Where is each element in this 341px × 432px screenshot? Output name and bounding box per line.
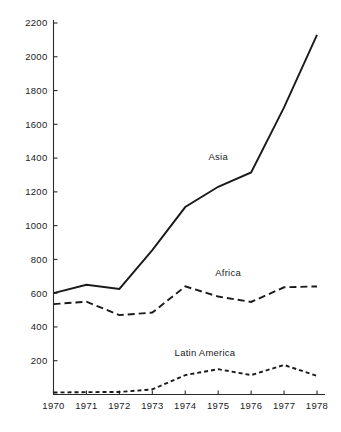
y-axis-tick-labels: 2004006008001000120014001600180020002200: [25, 17, 47, 366]
x-tick-label: 1974: [174, 400, 196, 411]
x-tick-label: 1977: [273, 400, 295, 411]
x-tick-label: 1975: [207, 400, 229, 411]
y-tick-label: 800: [31, 254, 48, 265]
series-line-africa: [54, 286, 318, 315]
axis-lines: [54, 20, 326, 395]
chart-canvas: 2004006008001000120014001600180020002200…: [0, 0, 341, 432]
y-tick-label: 600: [31, 288, 48, 299]
axes: [54, 20, 326, 395]
x-axis-tick-labels: 197019711972197319741975197619771978: [42, 400, 328, 411]
series-label-africa: Africa: [215, 267, 241, 278]
x-axis-ticks: [54, 391, 318, 395]
y-tick-label: 1400: [25, 152, 47, 163]
y-tick-label: 1800: [25, 85, 47, 96]
x-tick-label: 1971: [75, 400, 97, 411]
line-chart: 2004006008001000120014001600180020002200…: [0, 0, 341, 432]
x-tick-label: 1973: [141, 400, 163, 411]
y-tick-label: 400: [31, 321, 48, 332]
x-tick-label: 1976: [240, 400, 262, 411]
series-label-latin-america: Latin America: [175, 347, 236, 358]
data-series: [54, 35, 318, 393]
y-tick-label: 1200: [25, 186, 47, 197]
y-tick-label: 200: [31, 355, 48, 366]
x-tick-label: 1972: [108, 400, 130, 411]
y-tick-label: 2200: [25, 17, 47, 28]
x-tick-label: 1970: [42, 400, 64, 411]
series-line-asia: [54, 35, 318, 293]
series-line-latin-america: [54, 365, 318, 393]
x-tick-label: 1978: [306, 400, 328, 411]
y-tick-label: 1600: [25, 119, 47, 130]
y-tick-label: 2000: [25, 51, 47, 62]
y-axis-ticks: [54, 23, 58, 361]
y-tick-label: 1000: [25, 220, 47, 231]
series-label-asia: Asia: [208, 151, 228, 162]
